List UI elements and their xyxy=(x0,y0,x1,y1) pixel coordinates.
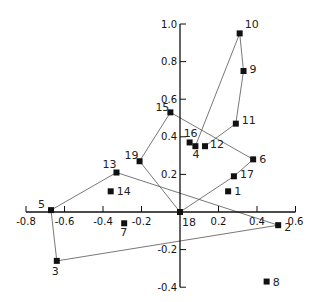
data-point: 7 xyxy=(120,220,127,239)
point-label: 3 xyxy=(52,265,59,278)
y-tick-label: 1.0 xyxy=(161,19,177,30)
point-label: 6 xyxy=(259,153,266,166)
data-point: 1 xyxy=(225,185,241,198)
square-marker-icon xyxy=(250,156,256,162)
data-point: 8 xyxy=(264,276,280,289)
data-point: 10 xyxy=(237,18,259,36)
y-tick-label: -0.4 xyxy=(157,282,177,293)
point-label: 18 xyxy=(182,216,196,229)
y-tick-label: 0.2 xyxy=(161,169,177,180)
data-point: 5 xyxy=(38,198,54,213)
point-label: 12 xyxy=(210,138,224,151)
square-marker-icon xyxy=(177,209,183,215)
point-label: 19 xyxy=(125,149,139,162)
data-point: 13 xyxy=(102,158,119,176)
square-marker-icon xyxy=(54,258,60,264)
connection-lines xyxy=(51,33,278,261)
y-tick-label: 0.4 xyxy=(161,131,177,142)
point-label: 10 xyxy=(245,18,259,31)
x-tick-label: -0.2 xyxy=(132,216,152,227)
point-label: 1 xyxy=(234,185,241,198)
square-marker-icon xyxy=(275,222,281,228)
point-label: 9 xyxy=(250,63,257,76)
data-point: 19 xyxy=(125,149,143,164)
square-marker-icon xyxy=(231,173,237,179)
square-marker-icon xyxy=(237,30,243,36)
data-point: 14 xyxy=(108,185,131,198)
scatter-chart: -0.8-0.6-0.4-0.20.20.40.61.00.80.60.40.2… xyxy=(0,0,316,302)
x-tick-label: 0.2 xyxy=(211,216,227,227)
square-marker-icon xyxy=(225,188,231,194)
x-tick-label: 0.4 xyxy=(249,216,265,227)
point-label: 17 xyxy=(240,168,254,181)
data-point: 2 xyxy=(275,221,291,234)
square-marker-icon xyxy=(202,143,208,149)
y-tick-label: -0.2 xyxy=(157,244,177,255)
point-label: 8 xyxy=(273,276,280,289)
data-point: 12 xyxy=(202,138,224,151)
square-marker-icon xyxy=(233,121,239,127)
square-marker-icon xyxy=(264,279,270,285)
data-point: 16 xyxy=(184,127,198,145)
data-point: 4 xyxy=(192,143,199,161)
square-marker-icon xyxy=(108,188,114,194)
y-tick-label: 0.8 xyxy=(161,56,177,67)
point-label: 16 xyxy=(184,127,198,140)
x-tick-label: -0.8 xyxy=(16,216,36,227)
x-tick-label: -0.4 xyxy=(93,216,113,227)
data-point: 3 xyxy=(52,258,60,278)
connection-path xyxy=(195,33,243,146)
point-label: 11 xyxy=(242,114,256,127)
data-point: 6 xyxy=(250,153,266,166)
square-marker-icon xyxy=(241,68,247,74)
point-label: 13 xyxy=(102,158,116,171)
point-label: 15 xyxy=(155,101,169,114)
point-label: 7 xyxy=(120,226,127,239)
x-tick-label: -0.6 xyxy=(55,216,75,227)
point-label: 4 xyxy=(192,148,199,161)
point-label: 5 xyxy=(38,198,45,211)
point-label: 14 xyxy=(117,185,131,198)
data-point: 17 xyxy=(231,168,254,181)
point-label: 2 xyxy=(284,221,291,234)
square-marker-icon xyxy=(48,207,54,213)
